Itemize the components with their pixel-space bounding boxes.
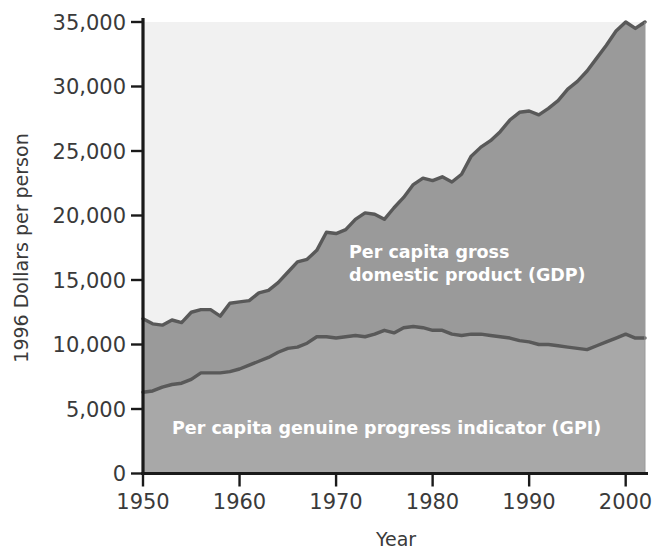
x-tick-labels: 1950 1960 1970 1980 1990 2000 xyxy=(116,490,652,514)
x-tick-label-2000: 2000 xyxy=(599,490,652,514)
chart-figure: 35,000 30,000 25,000 20,000 15,000 10,00… xyxy=(0,0,670,552)
y-tick-labels: 35,000 30,000 25,000 20,000 15,000 10,00… xyxy=(53,11,126,486)
y-tick-label-5000: 5,000 xyxy=(66,398,126,422)
x-axis-title: Year xyxy=(375,528,416,550)
y-axis-title: 1996 Dollars per person xyxy=(10,133,32,362)
x-tick-label-1960: 1960 xyxy=(213,490,266,514)
y-tick-label-25000: 25,000 xyxy=(53,140,126,164)
y-tick-label-30000: 30,000 xyxy=(53,75,126,99)
gdp-label-line2: domestic product (GDP) xyxy=(349,265,586,285)
gpi-series-label: Per capita genuine progress indicator (G… xyxy=(172,418,601,438)
y-tick-label-10000: 10,000 xyxy=(53,333,126,357)
y-axis-ticks xyxy=(131,22,143,474)
y-tick-label-15000: 15,000 xyxy=(53,269,126,293)
gdp-label-line1: Per capita gross xyxy=(349,242,509,262)
x-tick-label-1990: 1990 xyxy=(502,490,555,514)
x-axis-ticks xyxy=(143,474,626,487)
gpi-label-line1: Per capita genuine progress indicator (G… xyxy=(172,418,601,438)
x-tick-label-1970: 1970 xyxy=(309,490,362,514)
y-tick-label-35000: 35,000 xyxy=(53,11,126,35)
x-tick-label-1980: 1980 xyxy=(406,490,459,514)
y-tick-label-20000: 20,000 xyxy=(53,204,126,228)
y-tick-label-0: 0 xyxy=(113,462,126,486)
x-tick-label-1950: 1950 xyxy=(116,490,169,514)
gdp-gpi-area-chart: 35,000 30,000 25,000 20,000 15,000 10,00… xyxy=(0,0,670,552)
